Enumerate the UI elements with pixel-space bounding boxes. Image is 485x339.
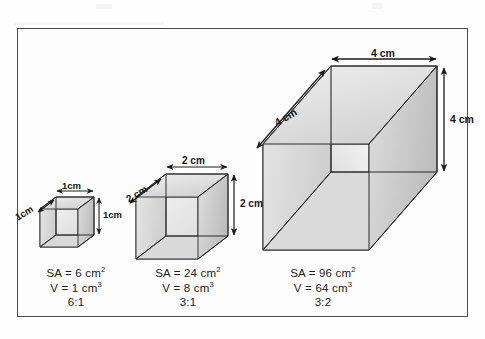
cube-large-group: [257, 59, 444, 250]
figure-root: 1cm 1cm 1cm 2 cm 2 cm 2 cm 4 cm 4 cm 4 c…: [0, 0, 485, 339]
cube-medium-ratio: 3:1: [126, 295, 250, 310]
cube-small-top-dim-label: 1cm: [62, 180, 81, 191]
cube-large-surface-area: SA = 96 cm2: [258, 266, 388, 281]
cube-large-volume: V = 64 cm3: [258, 281, 388, 296]
cube-medium-top-dim-label: 2 cm: [182, 155, 205, 166]
cube-medium-caption: SA = 24 cm2 V = 8 cm3 3:1: [126, 266, 250, 310]
cube-medium-right-dim-label: 2 cm: [240, 198, 263, 209]
cube-small-right-dim-label: 1cm: [103, 209, 122, 220]
cube-medium-volume: V = 8 cm3: [126, 281, 250, 296]
cube-small-surface-area: SA = 6 cm2: [18, 266, 134, 281]
cube-medium-surface-area: SA = 24 cm2: [126, 266, 250, 281]
cube-large-right-dim-label: 4 cm: [450, 113, 474, 125]
cube-large-caption: SA = 96 cm2 V = 64 cm3 3:2: [258, 266, 388, 310]
cube-small-caption: SA = 6 cm2 V = 1 cm3 6:1: [18, 266, 134, 310]
cube-small-ratio: 6:1: [18, 295, 134, 310]
cube-small-volume: V = 1 cm3: [18, 281, 134, 296]
cube-large-ratio: 3:2: [258, 295, 388, 310]
cube-large-top-dim-label: 4 cm: [371, 47, 395, 59]
cube-medium-group: [130, 167, 234, 259]
cube-small-group: [38, 191, 99, 247]
